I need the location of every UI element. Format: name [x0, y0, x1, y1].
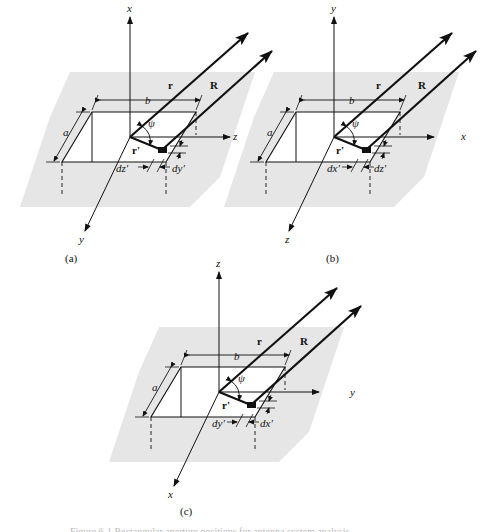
dim-d1-label: dz' — [116, 163, 128, 174]
axis-right-label: z — [233, 131, 237, 142]
panel-caption: (b) — [326, 253, 339, 264]
dim-b-label: b — [234, 351, 240, 362]
axis-up-label: z — [216, 258, 220, 269]
dim-d1-label: dx' — [327, 163, 340, 174]
vector-r-label: r — [376, 80, 381, 91]
vector-r-label: r — [168, 80, 173, 91]
psi-label: ψ — [238, 373, 245, 384]
dim-d2-label: dz' — [374, 163, 386, 174]
axis-out-label: y — [79, 234, 84, 245]
aperture-figure — [0, 0, 484, 532]
axis-out-label: x — [168, 489, 173, 500]
panel-caption: (c) — [180, 506, 192, 517]
axis-up-label: y — [331, 3, 336, 14]
vector-R-label: R — [300, 336, 308, 347]
dim-a-label: a — [63, 127, 69, 138]
dim-d2-label: dx' — [260, 418, 273, 429]
vector-r-prime-label: r' — [222, 400, 230, 411]
panel-caption: (a) — [65, 253, 77, 264]
dim-a-label: a — [152, 382, 158, 393]
axis-right-label: x — [461, 131, 466, 142]
panel-c — [109, 272, 361, 486]
axis-up-label: x — [127, 3, 132, 14]
dim-d2-label: dy' — [172, 163, 185, 174]
vector-r-prime-label: r' — [336, 145, 344, 156]
vector-r-label: r — [257, 336, 262, 347]
vector-R-label: R — [418, 80, 426, 91]
axis-out-label: z — [285, 234, 289, 245]
dim-d1-label: dy' — [212, 418, 225, 429]
dim-a-label: a — [267, 127, 273, 138]
psi-label: ψ — [148, 118, 155, 129]
panel-b — [224, 17, 476, 231]
axis-right-label: y — [350, 387, 355, 398]
dim-b-label: b — [349, 95, 355, 106]
dim-b-label: b — [145, 95, 151, 106]
vector-r-prime-label: r' — [132, 145, 140, 156]
figure-caption-partial: Figure 6-1 Rectangular aperture position… — [70, 527, 450, 532]
psi-label: ψ — [352, 118, 359, 129]
vector-R-label: R — [210, 80, 218, 91]
